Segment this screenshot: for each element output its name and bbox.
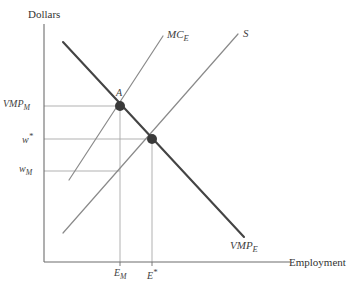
- y-tick-base-w-star: w: [22, 134, 29, 145]
- guide-lines: [44, 106, 152, 171]
- y-tick-base-vmp-m: VMP: [3, 98, 24, 109]
- curve-label-s: S: [243, 28, 249, 39]
- x-tick-marks: [120, 262, 152, 266]
- curve-base-vmpe: VMP: [230, 239, 253, 251]
- y-tick-label-w-star: w*: [22, 132, 33, 145]
- curve-sub-vmpe: E: [253, 244, 258, 254]
- economics-diagram: Dollars Employment VMPM w* wM EM E* MCE …: [0, 0, 351, 287]
- curve-label-mce: MCE: [167, 29, 189, 43]
- y-tick-label-w-m: wM: [19, 164, 32, 177]
- x-axis-title: Employment: [289, 257, 346, 268]
- x-tick-sup-e-star: *: [153, 267, 157, 277]
- y-tick-sup-w-star: *: [29, 131, 33, 141]
- y-axis-title: Dollars: [28, 9, 60, 20]
- curve-sub-mce: E: [184, 33, 189, 43]
- curve-label-vmpe: VMPE: [230, 240, 258, 254]
- plot-canvas: [0, 0, 351, 287]
- point-a-marker: [115, 101, 125, 111]
- x-tick-label-e-star: E*: [147, 268, 157, 281]
- y-tick-base-w-m: w: [19, 163, 26, 174]
- y-tick-sub-w-m: M: [26, 168, 33, 177]
- x-tick-sub-e-m: M: [120, 272, 127, 281]
- y-tick-label-vmp-m: VMPM: [3, 99, 30, 112]
- drop-lines: [120, 106, 152, 262]
- point-a-label: A: [116, 88, 122, 98]
- y-tick-sub-vmp-m: M: [24, 103, 31, 112]
- curve-base-mce: MC: [167, 28, 184, 40]
- point-equilibrium-marker: [147, 134, 157, 144]
- x-tick-label-e-m: EM: [114, 268, 127, 281]
- curve-base-s: S: [243, 27, 249, 39]
